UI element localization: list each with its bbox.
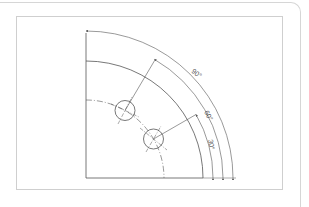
flange-drawing: 90° 60° 30° bbox=[0, 0, 309, 207]
ext-line-30 bbox=[154, 115, 197, 140]
ext-line-60 bbox=[125, 59, 156, 111]
outer-arc bbox=[86, 61, 203, 178]
dim-label-60: 60° bbox=[203, 109, 214, 122]
bolt-circle bbox=[86, 100, 164, 178]
dim-label-30: 30° bbox=[207, 139, 216, 151]
dim-label-90: 90° bbox=[190, 67, 203, 79]
